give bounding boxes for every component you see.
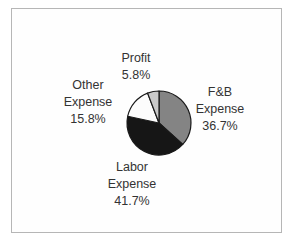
- pie-label-profit-value: 5.8%: [121, 67, 150, 84]
- pie-label-profit: Profit 5.8%: [121, 50, 150, 84]
- chart-frame: Profit 5.8% F&B Expense 36.7% Other Expe…: [11, 8, 282, 233]
- pie-chart: [124, 88, 194, 158]
- pie-label-labor-expense: Labor Expense 41.7%: [108, 159, 157, 210]
- pie-label-labor-name-line2: Expense: [108, 176, 157, 193]
- pie-label-other-expense: Other Expense 15.8%: [64, 77, 113, 128]
- pie-label-labor-name-line1: Labor: [108, 159, 157, 176]
- pie-label-profit-name: Profit: [121, 50, 150, 67]
- pie-label-fnb-name-line2: Expense: [196, 101, 245, 118]
- pie-label-fnb-value: 36.7%: [196, 118, 245, 135]
- pie-label-fnb-expense: F&B Expense 36.7%: [196, 84, 245, 135]
- pie-label-fnb-name-line1: F&B: [196, 84, 245, 101]
- pie-label-other-name-line1: Other: [64, 77, 113, 94]
- pie-label-other-value: 15.8%: [64, 111, 113, 128]
- pie-label-labor-value: 41.7%: [108, 193, 157, 210]
- pie-label-other-name-line2: Expense: [64, 94, 113, 111]
